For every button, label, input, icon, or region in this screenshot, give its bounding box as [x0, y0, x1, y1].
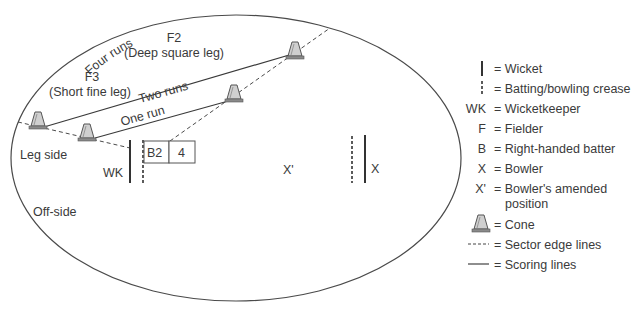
- legend-cone-icon: [472, 215, 490, 232]
- bowler-amended-label: X': [283, 163, 294, 177]
- legend-x-amended-label-line2: position: [505, 197, 548, 211]
- legend-wicket-label: = Wicket: [494, 62, 543, 76]
- cone-icon: [29, 112, 47, 129]
- field-boundary: [11, 15, 461, 301]
- legend: = Wicket = Batting/bowling crease WK = W…: [466, 61, 631, 272]
- legend-sector-label: = Sector edge lines: [494, 238, 601, 252]
- batter-box-value: 4: [178, 146, 185, 160]
- legend-f-symbol: F: [478, 122, 486, 136]
- fielder-f2-position: (Deep square leg): [124, 46, 224, 60]
- legend-x-amended-symbol: X': [475, 182, 486, 196]
- legend-wk-label: = Wicketkeeper: [494, 102, 581, 116]
- cone-icon: [78, 124, 96, 141]
- legend-wk-symbol: WK: [466, 102, 487, 116]
- legend-b-label: = Right-handed batter: [494, 142, 615, 156]
- legend-x-symbol: X: [478, 162, 487, 176]
- off-side-label: Off-side: [33, 205, 77, 219]
- wicketkeeper-label: WK: [103, 166, 124, 180]
- legend-f-label: = Fielder: [494, 122, 543, 136]
- legend-x-amended-label: = Bowler's amended: [494, 182, 607, 196]
- fielder-f2-id: F2: [167, 31, 182, 45]
- leg-side-label: Leg side: [20, 148, 67, 162]
- cone-icon: [286, 42, 304, 59]
- batter-label: B2: [147, 146, 162, 160]
- bowler-label: X: [371, 162, 380, 176]
- legend-crease-label: = Batting/bowling crease: [494, 82, 631, 96]
- cricket-field-diagram: Four runs F2 (Deep square leg) F3 (Short…: [0, 0, 636, 313]
- two-runs-label: Two runs: [137, 79, 190, 106]
- legend-cone-label: = Cone: [494, 218, 535, 232]
- legend-b-symbol: B: [478, 142, 486, 156]
- legend-x-label: = Bowler: [494, 162, 543, 176]
- fielder-f3-id: F3: [85, 70, 100, 84]
- legend-scoring-label: = Scoring lines: [494, 258, 576, 272]
- cone-icon: [225, 85, 243, 102]
- fielder-f3-position: (Short fine leg): [49, 85, 131, 99]
